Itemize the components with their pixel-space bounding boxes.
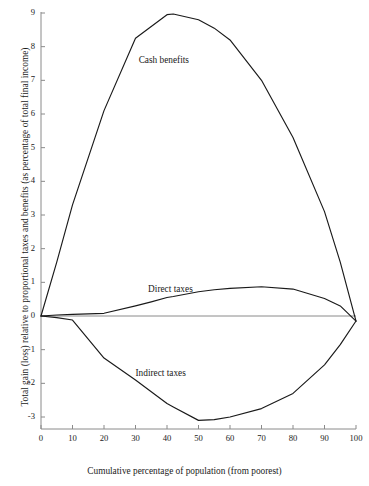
series-line: [41, 14, 356, 321]
x-tick-label: 100: [342, 433, 369, 443]
x-tick-label: 60: [216, 433, 244, 443]
x-tick-label: 20: [90, 433, 118, 443]
x-tick-label: 30: [122, 433, 150, 443]
x-tick-label: 50: [185, 433, 213, 443]
x-tick-label: 90: [311, 433, 339, 443]
series-label: Direct taxes: [148, 284, 193, 294]
x-axis-label: Cumulative percentage of population (fro…: [0, 466, 369, 476]
x-tick-label: 80: [279, 433, 307, 443]
x-tick-label: 70: [248, 433, 276, 443]
series-label: Indirect taxes: [136, 368, 186, 378]
axes-group: [41, 12, 356, 429]
chart-plot-area: [0, 0, 369, 486]
series-line: [41, 316, 356, 420]
x-tick-label: 0: [27, 433, 55, 443]
series-label: Cash benefits: [139, 55, 189, 65]
x-tick-label: 10: [59, 433, 87, 443]
chart-figure: -3-2-101234567890102030405060708090100 C…: [0, 0, 369, 486]
series-group: [41, 14, 356, 420]
x-tick-label: 40: [153, 433, 181, 443]
y-axis-label: Total gain (loss) relative to proportion…: [20, 4, 30, 450]
